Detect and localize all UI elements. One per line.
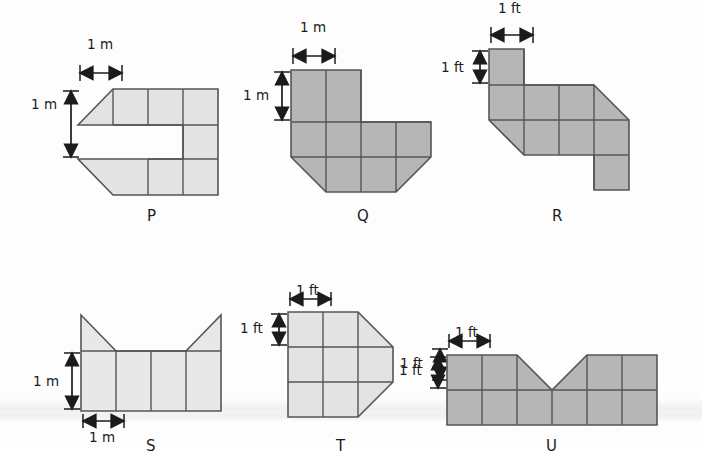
figure-U-height-label: 1 ft (399, 362, 422, 378)
figure-R-height-dimension (472, 51, 488, 83)
figure-Q-height-dimension (274, 72, 290, 120)
figure-U-width-label: 1 ft (455, 324, 478, 340)
figure-U (430, 334, 657, 425)
figure-U-label: U (546, 437, 557, 455)
figure-S (64, 315, 221, 428)
figure-P-height-label: 1 m (31, 96, 57, 112)
figure-T-label: T (336, 437, 346, 455)
figure-R-label: R (552, 207, 563, 225)
figure-T-outline (288, 312, 393, 417)
figure-P-height-dimension (63, 91, 79, 157)
figure-S-height-dimension (64, 353, 80, 409)
figure-S-width-label: 1 m (89, 429, 115, 445)
figure-S-label: S (146, 437, 156, 455)
figure-P-width-dimension (80, 65, 122, 81)
figure-S-height-label: 1 m (33, 373, 59, 389)
figure-Q-width-label: 1 m (300, 19, 326, 35)
figure-T-height-dimension (271, 314, 287, 345)
figure-U-height-dimension (430, 357, 446, 388)
figure-Q-label: Q (357, 207, 369, 225)
figure-R-width-label: 1 ft (498, 0, 521, 16)
figure-Q-height-label: 1 m (243, 87, 269, 103)
figure-R-width-dimension (491, 27, 533, 43)
figure-S-width-dimension (83, 414, 124, 428)
figure-R (472, 27, 629, 190)
figure-P (63, 65, 218, 195)
figure-T-height-label: 1 ft (240, 320, 263, 336)
figure-T-width-label: 1 ft (296, 282, 319, 298)
figure-T-right-dimension (432, 349, 448, 380)
figure-Q-width-dimension (293, 48, 335, 64)
figure-Q (274, 48, 431, 192)
figure-R-height-label: 1 ft (441, 59, 464, 75)
figure-P-label: P (147, 207, 157, 225)
figure-P-width-label: 1 m (87, 36, 113, 52)
